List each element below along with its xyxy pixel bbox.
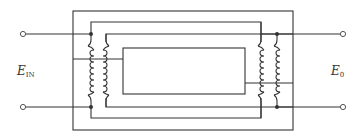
junction-dot-right-top: [275, 32, 279, 36]
core-frame-3: [106, 34, 293, 42]
inner-core-window: [123, 48, 245, 94]
output-terminal-top: [340, 31, 345, 36]
junction-dot-right-bottom: [275, 105, 279, 109]
input-terminal-top: [20, 31, 25, 36]
transformer-diagram: [0, 0, 362, 136]
primary-coil: [88, 34, 94, 107]
output-terminal-bottom: [340, 104, 345, 109]
core-frame-2-bottom: [91, 98, 261, 118]
junction-dot-left-bottom: [89, 105, 93, 109]
junction-dot-left-top: [89, 32, 93, 36]
core-frame-2: [91, 22, 261, 42]
input-terminal-bottom: [20, 104, 25, 109]
output-voltage-label: E0: [331, 64, 344, 79]
secondary-coil-inner: [258, 22, 264, 118]
input-voltage-label: EIN: [17, 64, 35, 79]
core-frame-3-bottom: [106, 98, 293, 107]
secondary-coil: [274, 34, 280, 107]
primary-coil-inner: [103, 34, 109, 107]
